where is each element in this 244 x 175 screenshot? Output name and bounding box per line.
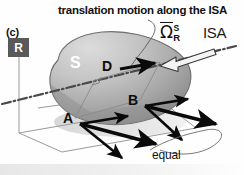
point-label-d: D	[102, 58, 112, 74]
omega-glyph: Ω	[160, 22, 173, 41]
panel-identifier: (c)	[6, 26, 19, 38]
equal-label: equal	[152, 148, 180, 162]
body-label: S	[70, 54, 81, 72]
point-label-a: A	[63, 110, 73, 126]
reference-frame-badge: R	[8, 38, 29, 57]
isa-label: ISA	[203, 24, 226, 41]
omega-vector-symbol: ΩSR	[160, 22, 180, 43]
omega-subscript: R	[173, 32, 180, 43]
scan-artifact-strip	[0, 164, 244, 175]
figure-panel: (c) translation motion along the ISA R S…	[0, 0, 244, 175]
point-label-b: B	[128, 92, 138, 108]
figure-caption: translation motion along the ISA	[58, 4, 182, 18]
reference-frame-label: R	[14, 42, 23, 54]
